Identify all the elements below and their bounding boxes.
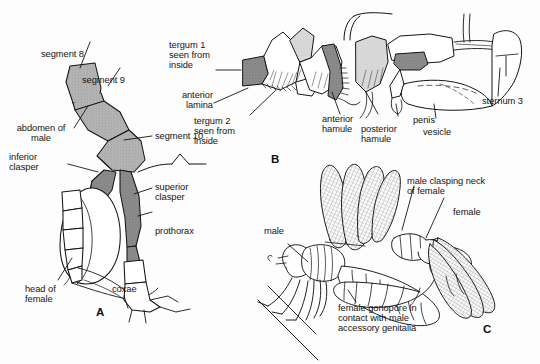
label-posterior-hamule: posterior hamule: [361, 124, 397, 144]
panel-letter-b: B: [271, 153, 279, 165]
label-sternum-3: sternum 3: [482, 96, 523, 106]
label-anterior-hamule: anterior hamule: [322, 114, 353, 134]
female-plate-3: [63, 228, 83, 250]
label-coxae: coxae: [112, 284, 137, 294]
female-plate-2: [63, 208, 83, 230]
label-inferior-clasper: inferior clasper: [9, 152, 39, 172]
label-segment-9: segment 9: [82, 75, 125, 85]
label-abdomen-of-male: abdomen of male: [6, 123, 76, 143]
vesicle-inner-shape: [394, 52, 428, 70]
male-thorax-block: [124, 260, 146, 284]
label-penis: penis: [413, 115, 435, 125]
label-tergum-1: tergum 1 seen from inside: [169, 40, 210, 71]
panel-letter-c: C: [483, 323, 491, 335]
label-tergum-2: tergum 2 seen from inside: [194, 116, 235, 147]
label-superior-clasper: superior clasper: [155, 182, 188, 202]
label-female: female: [453, 207, 481, 217]
panel-letter-a: A: [96, 306, 104, 318]
label-anterior-lamina: anterior lamina: [147, 90, 213, 110]
label-vesicle: vesicle: [423, 127, 451, 137]
female-plate-1: [62, 190, 82, 211]
label-segment-8: segment 8: [41, 49, 84, 59]
label-female-gonopore: female gonopore in contact with male acc…: [338, 303, 417, 334]
label-prothorax: prothorax: [155, 226, 194, 236]
label-male: male: [264, 226, 284, 236]
label-male-clasping-neck: male clasping neck of female: [407, 176, 485, 196]
label-head-of-female: head of female: [25, 284, 56, 304]
